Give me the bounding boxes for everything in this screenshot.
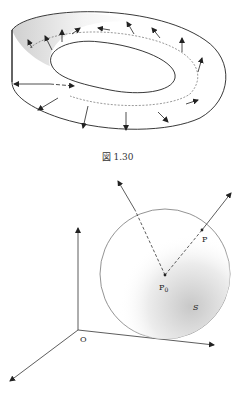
point-p0 <box>164 274 167 277</box>
label-p: P <box>202 235 208 244</box>
figure-canvas: O P0 P S <box>0 0 235 403</box>
sphere-figure: O P0 P S <box>10 181 231 381</box>
label-surface-s: S <box>193 303 199 312</box>
x-axis <box>10 330 78 381</box>
figure-caption: 図 1.30 <box>0 150 235 163</box>
label-origin: O <box>80 335 87 344</box>
mobius-band <box>12 12 226 130</box>
point-p <box>201 229 204 232</box>
